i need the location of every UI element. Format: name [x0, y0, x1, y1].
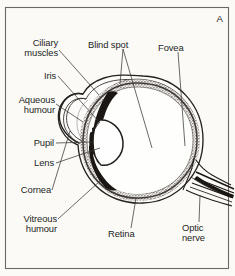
label-retina: Retina	[108, 229, 135, 239]
label-lens: Lens	[6, 158, 54, 168]
leader-optic-nerve	[199, 195, 200, 222]
label-blind-spot: Blind spot	[88, 40, 128, 50]
label-cornea: Cornea	[3, 185, 51, 195]
label-vitreous-humour: Vitreous humour	[3, 214, 57, 235]
leader-cornea	[52, 131, 70, 190]
label-optic-nerve: Optic nerve	[182, 223, 205, 244]
leader-ciliary-muscles	[59, 50, 99, 95]
label-iris: Iris	[6, 71, 56, 81]
label-aqueous-humour: Aqueous humour	[3, 95, 55, 116]
label-fovea: Fovea	[158, 43, 184, 53]
label-ciliary-muscles: Ciliary muscles	[6, 38, 58, 59]
eye-anatomy-figure: A Ciliary muscles Iris Aqueous humour Pu…	[0, 0, 235, 276]
label-pupil: Pupil	[6, 138, 54, 148]
leader-vitreous-humour	[58, 181, 100, 219]
panel-letter: A	[217, 13, 223, 24]
